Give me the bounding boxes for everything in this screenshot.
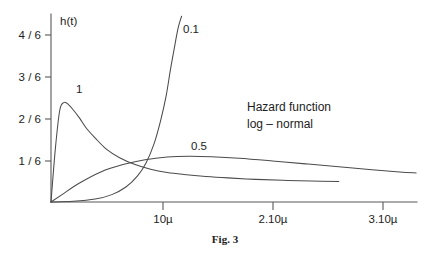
curve-sigma-0-1	[51, 16, 182, 202]
x-tick-label-1: 10µ	[153, 213, 173, 225]
hazard-function-chart: 4 / 6 3 / 6 2 / 6 1 / 6 h(t) 10µ 2.10µ 3…	[0, 0, 424, 259]
curve-sigma-0-5	[51, 156, 416, 202]
y-tick-label-1-6: 1 / 6	[19, 155, 41, 167]
figure-caption: Fig. 3	[212, 233, 239, 245]
annotation-line-1: Hazard function	[247, 100, 331, 114]
curve-label-0-5: 0.5	[191, 140, 207, 152]
x-tick-label-2: 2.10µ	[258, 213, 287, 225]
y-tick-label-2-6: 2 / 6	[19, 113, 41, 125]
y-tick-label-3-6: 3 / 6	[19, 71, 41, 83]
x-tick-label-3: 3.10µ	[368, 213, 397, 225]
annotation-line-2: log – normal	[247, 117, 313, 131]
curve-label-0-1: 0.1	[183, 23, 199, 35]
y-tick-label-4-6: 4 / 6	[19, 29, 41, 41]
y-axis-title: h(t)	[60, 15, 77, 27]
curve-label-1: 1	[76, 83, 82, 95]
figure-container: 4 / 6 3 / 6 2 / 6 1 / 6 h(t) 10µ 2.10µ 3…	[0, 0, 424, 259]
